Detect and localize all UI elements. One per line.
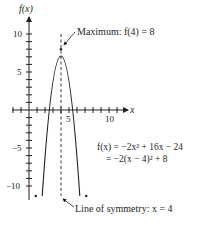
equation-line-2: = −2(x − 4)² + 8: [106, 154, 168, 165]
curve-end-left: [35, 195, 37, 197]
curve-end-right: [85, 195, 87, 197]
parabola-chart: f(x) x 10 5 −5 −10 5 10 Maximum: f(4) = …: [0, 0, 199, 225]
x-axis-label: x: [129, 104, 135, 115]
sym-arrow: [63, 199, 74, 207]
y-tick-neg5: −5: [12, 143, 22, 153]
y-tick-10: 10: [13, 29, 23, 39]
vertex-point: [60, 48, 63, 51]
symmetry-annotation: Line of symmetry: x = 4: [75, 203, 173, 214]
equation-line-1: f(x) = −2x² + 16x − 24: [97, 142, 183, 153]
max-arrow: [64, 32, 75, 45]
y-tick-neg10: −10: [6, 181, 21, 191]
y-axis-label: f(x): [19, 3, 34, 15]
parabola-curve: [42, 56, 80, 196]
x-tick-5: 5: [66, 114, 71, 124]
maximum-annotation: Maximum: f(4) = 8: [77, 26, 155, 38]
y-tick-5: 5: [17, 67, 22, 77]
x-tick-10: 10: [105, 114, 115, 124]
